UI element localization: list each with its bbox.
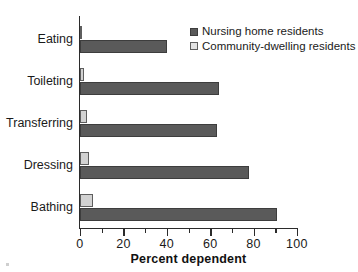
category-label-bathing: Bathing <box>31 200 73 214</box>
x-axis-title: Percent dependent <box>80 252 297 266</box>
x-tick-80 <box>254 229 255 236</box>
bar-community-bathing <box>80 194 93 207</box>
category-label-eating: Eating <box>38 32 73 46</box>
category-label-dressing: Dressing <box>24 158 73 172</box>
bar-nursing-transferring <box>80 124 217 137</box>
x-tick-100 <box>297 229 298 236</box>
x-minor-tick-10 <box>102 229 103 233</box>
x-tick-label-20: 20 <box>116 237 131 251</box>
x-tick-label-0: 0 <box>76 237 83 251</box>
bar-community-transferring <box>80 110 87 123</box>
x-minor-tick-70 <box>232 229 233 233</box>
category-label-transferring: Transferring <box>6 116 73 130</box>
x-minor-tick-30 <box>145 229 146 233</box>
x-tick-20 <box>123 229 124 236</box>
bar-nursing-dressing <box>80 166 249 179</box>
legend-item-nursing: Nursing home residents <box>190 25 355 39</box>
x-tick-label-60: 60 <box>203 237 218 251</box>
x-minor-tick-50 <box>189 229 190 233</box>
legend-item-community: Community-dwelling residents <box>190 40 355 54</box>
legend-label-nursing: Nursing home residents <box>202 25 323 39</box>
x-tick-40 <box>167 229 168 236</box>
chart-legend: Nursing home residentsCommunity-dwelling… <box>190 25 355 54</box>
legend-swatch-community-icon <box>190 42 198 50</box>
legend-swatch-nursing-icon <box>190 28 198 36</box>
x-tick-label-80: 80 <box>246 237 261 251</box>
x-minor-tick-90 <box>275 229 276 233</box>
legend-label-community: Community-dwelling residents <box>202 40 355 54</box>
x-tick-label-40: 40 <box>160 237 175 251</box>
x-tick-label-100: 100 <box>286 237 308 251</box>
bar-nursing-toileting <box>80 82 219 95</box>
bar-nursing-eating <box>80 40 167 53</box>
category-label-toileting: Toileting <box>27 74 73 88</box>
bar-chart-figure: 020406080100 Percent dependent EatingToi… <box>0 0 358 272</box>
scan-artifact <box>6 263 9 266</box>
bar-nursing-bathing <box>80 208 277 221</box>
x-tick-0 <box>80 229 81 236</box>
x-tick-60 <box>210 229 211 236</box>
bar-community-toileting <box>80 68 84 81</box>
bar-community-dressing <box>80 152 89 165</box>
bar-community-eating <box>80 26 82 39</box>
